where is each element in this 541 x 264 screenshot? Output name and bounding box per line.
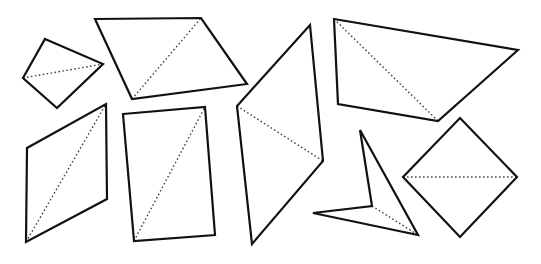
shape-square-diamond-right xyxy=(403,118,517,237)
shape-kite-small-left xyxy=(23,39,103,108)
diagram-canvas xyxy=(0,0,541,264)
dotted-diagonal xyxy=(132,18,201,99)
shape-parallelogram-top xyxy=(95,18,247,99)
shape-outline xyxy=(23,39,103,108)
shape-quadrilateral-top-right xyxy=(334,19,518,121)
shape-parallelogram-bottom-left xyxy=(26,104,107,242)
shape-outline xyxy=(123,107,215,241)
shape-outline xyxy=(313,130,418,235)
shape-parallelogram-tall-center xyxy=(237,25,323,244)
shapes-layer xyxy=(23,18,518,244)
shape-outline xyxy=(334,19,518,121)
shape-concave-dart xyxy=(313,130,418,235)
dotted-diagonal xyxy=(134,107,205,241)
shape-outline xyxy=(237,25,323,244)
dotted-diagonal xyxy=(237,106,323,161)
shape-outline xyxy=(95,18,247,99)
shape-rectangle-bottom xyxy=(123,107,215,241)
